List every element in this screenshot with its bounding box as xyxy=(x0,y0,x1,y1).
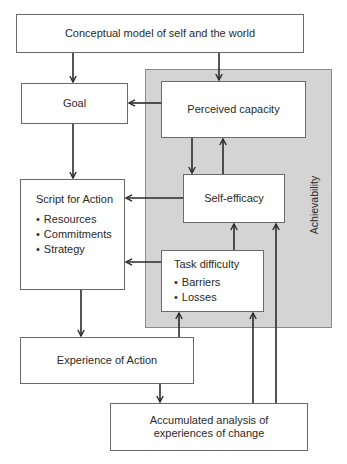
perceived-capacity-label: Perceived capacity xyxy=(187,103,279,116)
list-item-losses: Losses xyxy=(174,290,220,305)
experience-of-action-label: Experience of Action xyxy=(57,354,157,367)
perceived-capacity-box: Perceived capacity xyxy=(161,81,306,138)
script-for-action-title: Script for Action xyxy=(36,193,113,206)
accumulated-analysis-line1: Accumulated analysis of xyxy=(150,414,269,427)
goal-box: Goal xyxy=(21,83,128,124)
list-item-resources: Resources xyxy=(36,212,112,227)
experience-of-action-box: Experience of Action xyxy=(20,337,194,384)
task-difficulty-title: Task difficulty xyxy=(174,258,239,271)
achievability-label: Achievability xyxy=(308,173,320,237)
script-for-action-box: Script for Action Resources Commitments … xyxy=(20,179,125,290)
self-efficacy-box: Self-efficacy xyxy=(183,174,285,223)
accumulated-analysis-box: Accumulated analysis of experiences of c… xyxy=(110,403,308,451)
list-item-commitments: Commitments xyxy=(36,227,112,242)
conceptual-model-label: Conceptual model of self and the world xyxy=(65,27,255,40)
script-for-action-list: Resources Commitments Strategy xyxy=(36,212,112,257)
accumulated-analysis-line2: experiences of change xyxy=(154,427,265,440)
self-efficacy-label: Self-efficacy xyxy=(204,192,264,205)
list-item-strategy: Strategy xyxy=(36,242,112,257)
task-difficulty-list: Barriers Losses xyxy=(174,275,220,305)
list-item-barriers: Barriers xyxy=(174,275,220,290)
conceptual-model-box: Conceptual model of self and the world xyxy=(16,14,304,53)
goal-label: Goal xyxy=(63,97,86,110)
task-difficulty-box: Task difficulty Barriers Losses xyxy=(161,250,264,312)
